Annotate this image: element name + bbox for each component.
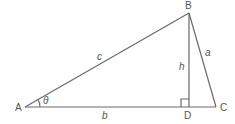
- side-label-a: a: [205, 47, 211, 58]
- side-label-c: c: [97, 51, 102, 62]
- vertex-label-c: C: [220, 102, 227, 113]
- side-a: [189, 13, 216, 107]
- side-label-b: b: [102, 110, 108, 121]
- vertex-label-b: B: [185, 0, 192, 11]
- side-c: [25, 13, 189, 107]
- vertex-label-d: D: [184, 110, 191, 121]
- angle-arc-theta: [38, 100, 40, 108]
- side-label-h: h: [179, 61, 185, 72]
- vertex-label-a: A: [15, 102, 22, 113]
- angle-label-theta: θ: [43, 95, 49, 106]
- right-angle-marker: [181, 99, 189, 107]
- triangle-diagram: A B C D c a b h θ: [0, 0, 235, 124]
